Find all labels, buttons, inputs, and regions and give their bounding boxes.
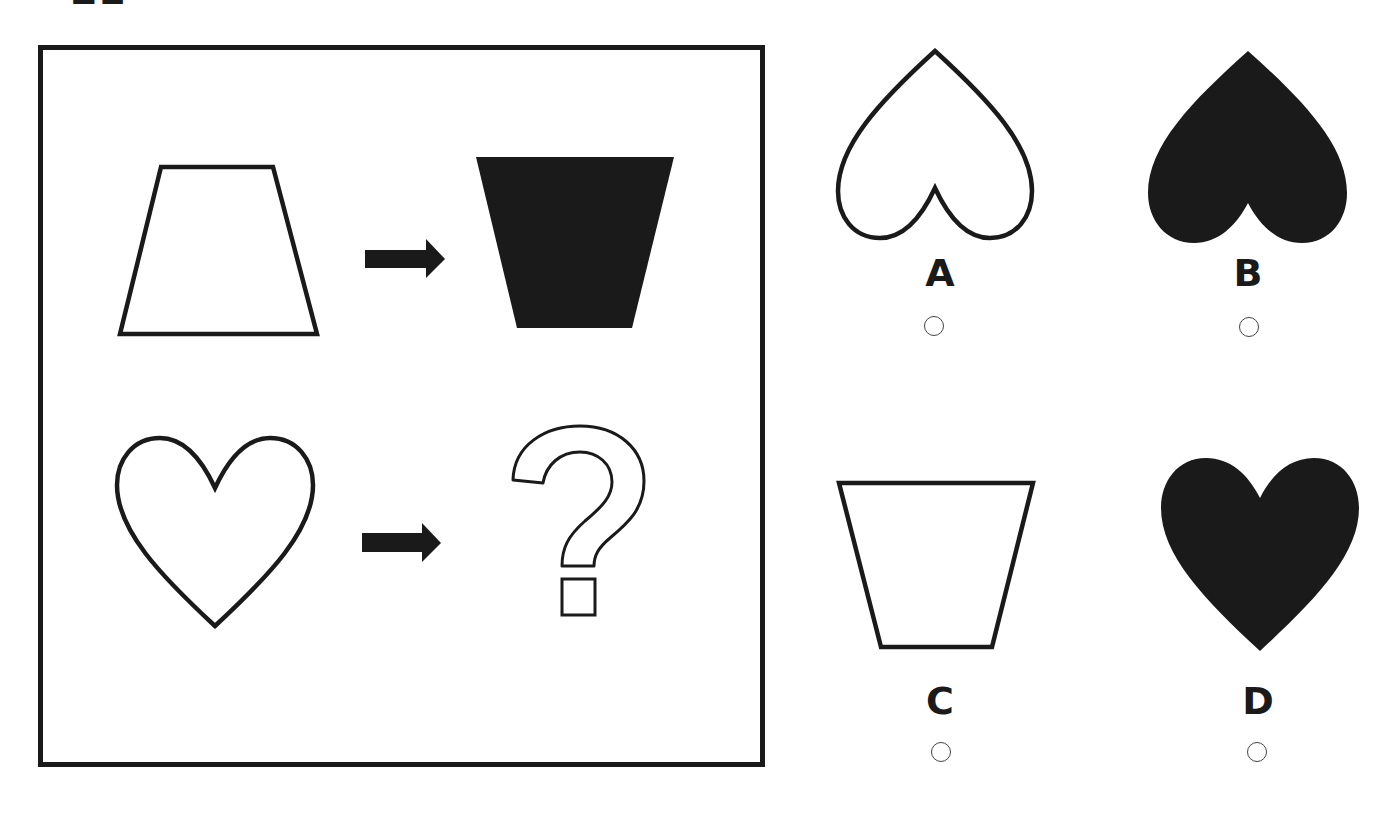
option-c-label: C xyxy=(900,682,980,720)
option-a-radio[interactable] xyxy=(924,316,944,336)
right-arrow-icon xyxy=(362,523,441,562)
right-arrow-icon xyxy=(365,239,445,278)
question-mark-icon xyxy=(513,426,644,615)
option-d-label: D xyxy=(1218,682,1298,720)
option-b-heart-inverted-filled xyxy=(1148,51,1347,243)
option-c-radio[interactable] xyxy=(931,742,951,762)
option-d-heart-upright-filled xyxy=(1161,458,1359,651)
option-c-trapezoid-outline xyxy=(839,483,1033,647)
prompt-heart-outline xyxy=(117,438,313,626)
prompt-trapezoid-outline xyxy=(120,167,317,334)
option-a-label: A xyxy=(900,254,980,292)
option-d-radio[interactable] xyxy=(1247,742,1267,762)
option-b-label: B xyxy=(1208,254,1288,292)
option-b-radio[interactable] xyxy=(1239,317,1259,337)
prompt-trapezoid-filled-inverted xyxy=(476,157,674,328)
option-a-heart-inverted-outline xyxy=(838,51,1032,238)
